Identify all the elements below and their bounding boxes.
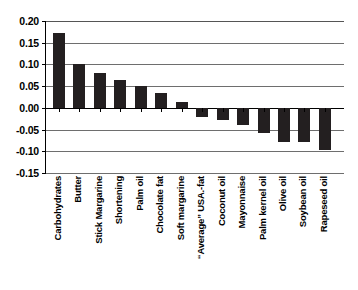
x-tick-mark	[59, 108, 60, 112]
x-category-label: Olive oil	[278, 176, 288, 211]
y-tick-label: 0.05	[19, 80, 39, 92]
bar	[73, 64, 85, 107]
y-tick-mark	[42, 108, 46, 109]
x-tick-mark	[243, 108, 244, 112]
x-category-label: Butter	[73, 176, 83, 203]
bar	[114, 80, 126, 107]
x-category-label: Mayonnaise	[237, 176, 247, 228]
y-tick-label: 0.00	[19, 102, 39, 114]
x-category-label: Stick Margarine	[94, 176, 104, 244]
gridline	[46, 86, 344, 87]
bar	[94, 73, 106, 108]
x-tick-mark	[202, 108, 203, 112]
x-category-label: Chocolate fat	[155, 176, 165, 234]
y-tick-mark	[42, 21, 46, 22]
y-tick-label: 0.15	[19, 37, 39, 49]
bar	[298, 108, 310, 142]
gridline	[46, 151, 344, 152]
x-category-label: Carbohydrates	[53, 176, 63, 240]
x-category-label: Soft margarine	[176, 176, 186, 240]
y-tick-mark	[42, 43, 46, 44]
y-tick-mark	[42, 86, 46, 87]
x-tick-mark	[325, 108, 326, 112]
x-axis: CarbohydratesButterStick MargarineShorte…	[45, 176, 343, 290]
x-category-label: Shortening	[114, 176, 124, 224]
x-tick-mark	[161, 108, 162, 112]
x-category-label: Palm oil	[135, 176, 145, 211]
x-category-label: Palm kernel oil	[258, 176, 268, 240]
y-tick-mark	[42, 64, 46, 65]
bar	[319, 108, 331, 150]
y-axis: 0.200.150.100.050.00-0.05-0.10-0.15	[0, 0, 42, 290]
bar	[155, 93, 167, 108]
x-category-label: Rapeseed oil	[319, 176, 329, 232]
gridline	[46, 43, 344, 44]
y-tick-label: -0.10	[16, 145, 39, 157]
plot-area	[45, 21, 343, 173]
x-category-label: “Average” USA.-fat	[196, 176, 206, 259]
gridline	[46, 21, 344, 22]
x-tick-mark	[120, 108, 121, 112]
y-tick-label: 0.10	[19, 58, 39, 70]
bar-chart: 0.200.150.100.050.00-0.05-0.10-0.15 Carb…	[0, 0, 358, 290]
x-tick-mark	[100, 108, 101, 112]
gridline	[46, 64, 344, 65]
x-category-label: Soybean oil	[298, 176, 308, 227]
x-tick-mark	[264, 108, 265, 112]
bar	[278, 108, 290, 142]
y-tick-mark	[42, 151, 46, 152]
x-tick-mark	[223, 108, 224, 112]
y-tick-mark	[42, 130, 46, 131]
x-tick-mark	[284, 108, 285, 112]
gridline	[46, 173, 344, 174]
y-tick-label: -0.05	[16, 124, 39, 136]
x-tick-mark	[141, 108, 142, 112]
y-tick-label: -0.15	[16, 167, 39, 179]
x-tick-mark	[79, 108, 80, 112]
x-tick-mark	[304, 108, 305, 112]
x-tick-mark	[182, 108, 183, 112]
y-tick-label: 0.20	[19, 15, 39, 27]
x-category-label: Coconut oil	[217, 176, 227, 226]
y-tick-mark	[42, 173, 46, 174]
bar	[53, 33, 65, 108]
bar	[135, 86, 147, 108]
